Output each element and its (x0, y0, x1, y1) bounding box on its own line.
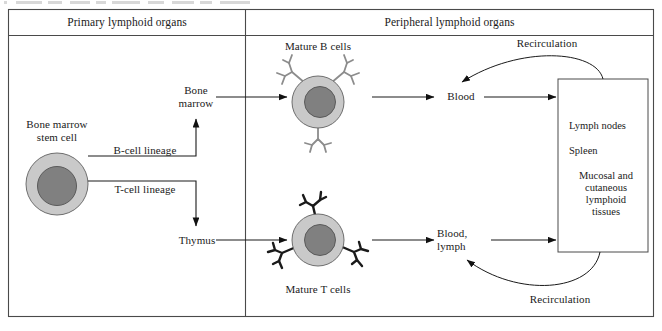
recirculation-top-label: Recirculation (492, 37, 602, 50)
b-cell-lineage-label: B-cell lineage (92, 144, 198, 157)
blood-label: Blood (437, 90, 485, 103)
organ-box-item-spleen: Spleen (569, 145, 647, 157)
blood-lymph-label: Blood, lymph (437, 227, 489, 252)
stem-cell-label: Bone marrow stem cell (7, 118, 107, 143)
panel-title-peripheral: Peripheral lymphoid organs (246, 16, 653, 29)
recirculation-bottom-label: Recirculation (505, 293, 615, 306)
organ-box-item-mucosal-cutaneous: Mucosal and cutaneous lymphoid tissues (566, 170, 646, 218)
t-cell-lineage-label: T-cell lineage (92, 183, 198, 196)
mature-t-cells-label: Mature T cells (258, 283, 378, 296)
organ-box-item-lymph-nodes: Lymph nodes (569, 120, 647, 132)
bone-marrow-label: Bone marrow (165, 84, 227, 109)
figure-canvas: Primary lymphoid organs Peripheral lymph… (0, 0, 662, 331)
mature-b-cells-label: Mature B cells (258, 40, 378, 53)
stem-cell-glyph (26, 153, 88, 215)
thymus-label: Thymus (166, 234, 228, 247)
peripheral-organ-box (558, 79, 648, 252)
panel-title-primary: Primary lymphoid organs (9, 16, 245, 29)
